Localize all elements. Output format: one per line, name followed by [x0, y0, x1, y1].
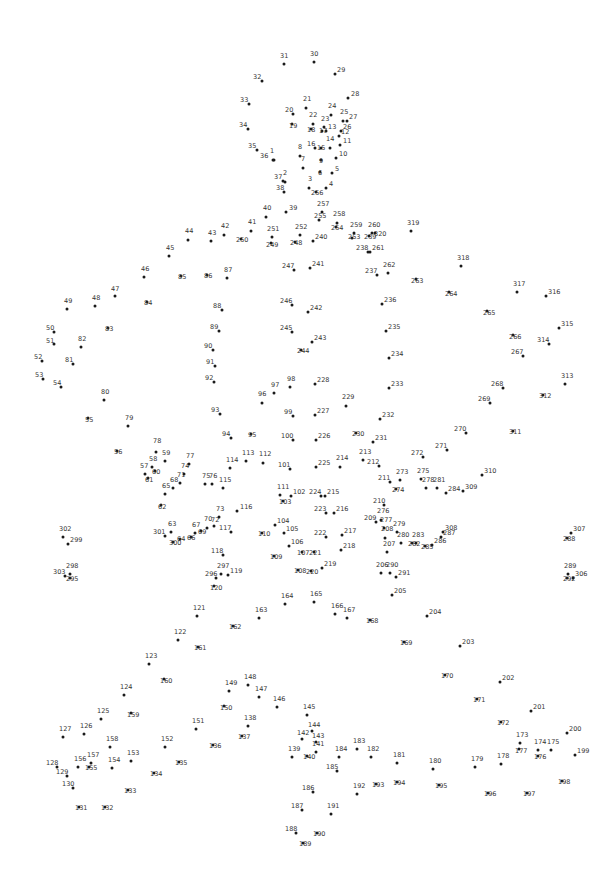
dot-label: 317: [513, 281, 525, 288]
dot-label: 271: [435, 443, 447, 450]
dot-158: [109, 746, 112, 749]
dot-123: [148, 663, 151, 666]
dot-label: 108: [294, 568, 306, 575]
dot-7: [302, 167, 305, 170]
dot-label: 143: [312, 733, 324, 740]
dot-label: 190: [313, 831, 325, 838]
dot-214: [339, 466, 342, 469]
dot-73: [218, 516, 221, 519]
dot-label: 53: [35, 372, 43, 379]
dot-302: [62, 536, 65, 539]
dot-label: 156: [74, 756, 86, 763]
dot-label: 147: [255, 686, 267, 693]
dot-143: [315, 741, 318, 744]
dot-label: 18: [307, 127, 315, 134]
dot-label: 8: [298, 144, 302, 151]
dot-label: 69: [198, 529, 206, 536]
dot-label: 81: [65, 357, 73, 364]
dot-278: [425, 487, 428, 490]
dot-label: 119: [230, 568, 242, 575]
dot-label: 42: [221, 223, 229, 230]
dot-label: 89: [210, 324, 218, 331]
dot-label: 283: [412, 532, 424, 539]
dot-191: [330, 813, 333, 816]
dot-label: 7: [301, 156, 305, 163]
dot-label: 193: [372, 782, 384, 789]
dot-label: 97: [271, 382, 279, 389]
dot-label: 92: [205, 375, 213, 382]
dot-76: [211, 483, 214, 486]
dot-label: 137: [238, 734, 250, 741]
dot-4: [325, 187, 328, 190]
dot-label: 307: [573, 526, 585, 533]
dot-label: 48: [92, 295, 100, 302]
dot-70: [206, 527, 209, 530]
dot-124: [123, 694, 126, 697]
dot-label: 183: [353, 738, 365, 745]
dot-8: [299, 155, 302, 158]
dot-label: 300: [169, 540, 181, 547]
dot-label: 177: [515, 748, 527, 755]
dot-42: [223, 234, 226, 237]
dot-label: 40: [263, 205, 271, 212]
dot-label: 280: [397, 532, 409, 539]
dot-label: 152: [161, 736, 173, 743]
dot-label: 50: [46, 325, 54, 332]
dot-label: 223: [314, 506, 326, 513]
dot-label: 242: [310, 305, 322, 312]
dot-label: 263: [411, 278, 423, 285]
dot-label: 236: [384, 297, 396, 304]
dot-173: [519, 742, 522, 745]
dot-label: 136: [209, 743, 221, 750]
dot-label: 312: [539, 393, 551, 400]
dot-label: 186: [302, 785, 314, 792]
dot-label: 106: [291, 539, 303, 546]
dot-label: 54: [53, 380, 61, 387]
dot-178: [500, 763, 503, 766]
dot-label: 202: [502, 675, 514, 682]
dot-label: 163: [255, 607, 267, 614]
dot-label: 296: [205, 571, 217, 578]
dot-label: 148: [244, 674, 256, 681]
dot-207: [386, 551, 389, 554]
dot-label: 268: [491, 381, 503, 388]
dot-label: 144: [308, 722, 320, 729]
dot-277: [383, 527, 386, 530]
dot-30: [313, 61, 316, 64]
dot-label: 289: [564, 563, 576, 570]
dot-208: [384, 537, 387, 540]
dot-label: 230: [352, 431, 364, 438]
dot-label: 124: [120, 684, 132, 691]
dot-label: 221: [309, 550, 321, 557]
dot-label: 179: [471, 756, 483, 763]
dot-114: [229, 467, 232, 470]
dot-label: 109: [270, 554, 282, 561]
dot-label: 140: [303, 754, 315, 761]
dot-22: [312, 123, 315, 126]
dot-label: 302: [59, 526, 71, 533]
dot-label: 247: [282, 263, 294, 270]
dot-157: [90, 762, 93, 765]
dot-label: 17: [319, 128, 327, 135]
dot-label: 253: [348, 234, 360, 241]
dot-label: 21: [303, 96, 311, 103]
dot-label: 200: [569, 726, 581, 733]
dot-label: 261: [372, 245, 384, 252]
dot-label: 173: [516, 732, 528, 739]
dot-label: 90: [204, 343, 212, 350]
dot-48: [94, 305, 97, 308]
dot-label: 117: [219, 525, 231, 532]
dot-label: 288: [563, 536, 575, 543]
dot-139: [291, 756, 294, 759]
dot-label: 55: [85, 417, 93, 424]
dot-label: 197: [523, 791, 535, 798]
dot-label: 185: [326, 764, 338, 771]
dot-label: 164: [281, 593, 293, 600]
dot-label: 78: [153, 438, 161, 445]
dot-label: 199: [577, 748, 589, 755]
dot-label: 256: [311, 190, 323, 197]
dot-label: 149: [225, 680, 237, 687]
dot-label: 4: [329, 181, 333, 188]
dot-72: [213, 525, 216, 528]
dot-label: 24: [328, 103, 336, 110]
